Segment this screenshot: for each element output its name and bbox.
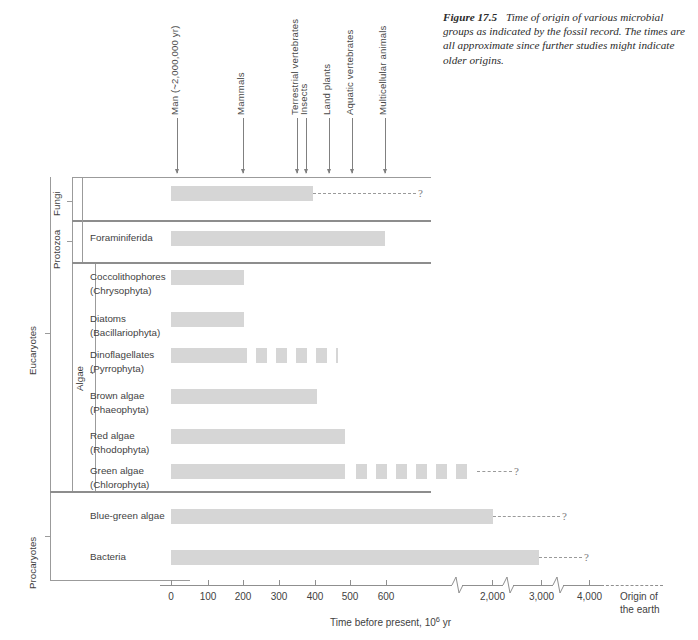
- axis-tick-4000: [589, 580, 590, 585]
- bar-bacteria: [171, 550, 539, 565]
- axis-label-400: 400: [295, 591, 335, 602]
- event-label-aquatic-vertebrates: Aquatic vertebrates: [345, 28, 355, 115]
- row-rule-protozoa-algae: [72, 262, 431, 264]
- row-label-diatoms-line2: (Bacillariophyta): [90, 327, 160, 339]
- cell-wall-fungi: [82, 177, 83, 220]
- figure-17-5: Figure 17.5Time of origin of various mic…: [0, 0, 698, 640]
- axis-end-label: Origin of the earth: [620, 591, 659, 616]
- group-label-algae: Algae: [75, 355, 85, 391]
- axis-break-icon-1: [451, 576, 464, 594]
- bar-dinoflagellates: [171, 348, 247, 363]
- bar-red-algae: [171, 429, 345, 444]
- axis-line-dashed-tail: [601, 585, 663, 586]
- bar-coccolithophores: [171, 270, 244, 285]
- event-arrow-insects: [306, 118, 307, 173]
- axis-label-500: 500: [330, 591, 370, 602]
- tree-tick-procaryotes: [45, 536, 50, 537]
- row-rule-top: [72, 177, 431, 178]
- axis-line-seg3: [513, 585, 553, 586]
- row-label-foraminiferida: Foraminiferida: [90, 232, 153, 244]
- group-label-protozoa: Protozoa: [52, 217, 62, 269]
- figure-number: Figure 17.5: [443, 11, 497, 23]
- tree-tick-protozoa: [67, 241, 72, 242]
- bar-bacteria-question: ?: [584, 551, 589, 563]
- axis-title-unit: yr: [443, 617, 451, 628]
- event-label-mammals: Mammals: [236, 62, 246, 115]
- axis-label-4000: 4,000: [567, 591, 612, 602]
- axis-label-300: 300: [259, 591, 299, 602]
- axis-label-3000: 3,000: [519, 591, 564, 602]
- axis-end-label-line2: the earth: [620, 604, 659, 615]
- axis-title-text: Time before present, 10: [330, 617, 436, 628]
- event-arrow-man: [177, 118, 178, 173]
- bar-blue-green-algae-question: ?: [562, 510, 567, 522]
- event-arrow-terrestrial-vertebrates: [297, 118, 298, 173]
- event-arrow-multicellular-animals: [385, 118, 386, 173]
- bar-foraminiferida: [171, 231, 385, 246]
- tree-tick-eucaryotes: [45, 333, 50, 334]
- bar-dinoflagellates-uncertain: [256, 348, 338, 363]
- event-label-insects: Insects: [299, 72, 309, 115]
- axis-tick-400: [315, 580, 316, 585]
- row-label-coccolithophores-line1: Coccolithophores: [90, 271, 166, 283]
- tree-tick-fungi: [67, 201, 72, 202]
- axis-tick-0: [171, 580, 172, 585]
- axis-label-0: 0: [151, 591, 191, 602]
- bar-fungi-question: ?: [418, 187, 423, 199]
- axis-tick-2000: [492, 580, 493, 585]
- row-label-dinoflagellates-line2: (Pyrrophyta): [90, 363, 144, 375]
- axis-tick-200: [243, 580, 244, 585]
- bar-bacteria-uncertain: [539, 557, 582, 558]
- group-label-fungi: Fungi: [52, 182, 62, 216]
- group-label-procaryotes: Procaryotes: [28, 505, 38, 589]
- bar-green-algae: [171, 464, 345, 479]
- row-label-green-algae-line2: (Chlorophyta): [90, 479, 149, 491]
- axis-label-100: 100: [188, 591, 228, 602]
- bar-diatoms: [171, 312, 244, 327]
- axis-tick-600: [386, 580, 387, 585]
- row-label-coccolithophores-line2: (Chrysophyta): [90, 285, 152, 297]
- axis-line-left: [160, 585, 452, 586]
- axis-line-seg4: [563, 585, 601, 586]
- axis-tick-100: [208, 580, 209, 585]
- event-label-multicellular-animals: Multicellular animals: [378, 18, 388, 115]
- row-label-green-algae-line1: Green algae: [90, 465, 144, 477]
- row-label-bacteria: Bacteria: [90, 551, 126, 563]
- bar-green-algae-uncertain-blocks: [356, 464, 476, 479]
- event-arrow-aquatic-vertebrates: [352, 118, 353, 173]
- axis-title: Time before present, 106 yr: [330, 615, 451, 628]
- event-arrow-land-plants: [329, 118, 330, 173]
- row-label-dinoflagellates-line1: Dinoflagellates: [90, 349, 154, 361]
- bar-fungi-uncertain: [313, 193, 416, 194]
- bar-fungi: [171, 186, 313, 201]
- axis-label-200: 200: [223, 591, 263, 602]
- bar-brown-algae: [171, 389, 317, 404]
- axis-tick-300: [279, 580, 280, 585]
- row-label-red-algae-line1: Red algae: [90, 430, 135, 442]
- event-label-man: Man (~2,000,000 yr): [170, 10, 180, 115]
- bar-blue-green-algae: [171, 509, 493, 524]
- bar-green-algae-uncertain-line: [477, 471, 512, 472]
- axis-title-exponent: 6: [436, 615, 440, 624]
- event-label-land-plants: Land plants: [322, 52, 332, 115]
- axis-line-seg2: [462, 585, 503, 586]
- row-rule-bottom: [50, 580, 190, 581]
- row-label-diatoms-line1: Diatoms: [90, 313, 126, 325]
- axis-end-label-line1: Origin of: [620, 591, 658, 602]
- row-label-red-algae-line2: (Rhodophyta): [90, 444, 149, 456]
- row-rule-fungi-protozoa: [72, 220, 431, 222]
- bar-blue-green-algae-uncertain: [493, 516, 560, 517]
- cell-wall-protozoa: [82, 220, 83, 262]
- row-label-blue-green-algae: Blue-green algae: [90, 510, 165, 522]
- axis-label-600: 600: [366, 591, 406, 602]
- figure-caption: Figure 17.5Time of origin of various mic…: [443, 10, 691, 67]
- axis-tick-500: [350, 580, 351, 585]
- group-label-eucaryotes: Eucaryotes: [28, 295, 38, 375]
- row-label-brown-algae-line1: Brown algae: [90, 390, 144, 402]
- event-arrow-mammals: [243, 118, 244, 173]
- axis-label-2000: 2,000: [470, 591, 515, 602]
- tree-spine-eucaryotes: [72, 177, 73, 492]
- bar-green-algae-question: ?: [514, 465, 519, 477]
- axis-tick-3000: [541, 580, 542, 585]
- row-label-brown-algae-line2: (Phaeophyta): [90, 404, 149, 416]
